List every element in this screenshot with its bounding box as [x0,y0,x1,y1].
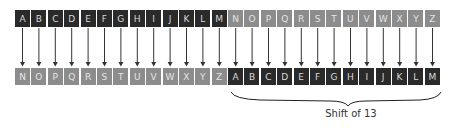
down-arrow-icon [315,28,320,67]
cipher-letter-z: Z [212,68,227,85]
cipher-letter-x: X [179,68,194,85]
down-arrow-icon [53,28,58,67]
cipher-letter-g: G [326,68,341,85]
shifted-alphabet-row: NOPQRSTUVWXYZABCDEFGHIJKLM [15,68,440,85]
cipher-letter-a: A [228,68,243,85]
cipher-letter-u: U [130,68,145,85]
down-arrow-icon [397,28,402,67]
cipher-letter-b: B [244,68,259,85]
down-arrow-icon [250,28,255,67]
cipher-letter-o: O [31,68,46,85]
cipher-letter-h: H [343,68,358,85]
down-arrow-icon [282,28,287,67]
cipher-letter-e: E [294,68,309,85]
cipher-letter-w: W [163,68,178,85]
down-arrow-icon [20,28,25,67]
cipher-letter-y: Y [195,68,210,85]
cipher-letter-q: Q [64,68,79,85]
down-arrow-icon [332,28,337,67]
curly-brace-icon [231,92,441,106]
cipher-letter-r: R [81,68,96,85]
down-arrow-icon [414,28,419,67]
down-arrow-icon [217,28,222,67]
down-arrow-icon [102,28,107,67]
cipher-letter-s: S [97,68,112,85]
down-arrow-icon [266,28,271,67]
down-arrow-icon [430,28,435,67]
cipher-letter-l: L [408,68,423,85]
cipher-letter-j: J [376,68,391,85]
down-arrow-icon [69,28,74,67]
cipher-letter-c: C [261,68,276,85]
down-arrow-icon [118,28,123,67]
down-arrow-icon [299,28,304,67]
down-arrow-icon [184,28,189,67]
cipher-letter-n: N [15,68,30,85]
down-arrow-icon [36,28,41,67]
cipher-letter-m: M [425,68,440,85]
down-arrow-icon [86,28,91,67]
down-arrow-icon [233,28,238,67]
down-arrow-icon [200,28,205,67]
shift-label: Shift of 13 [320,108,382,119]
cipher-letter-f: F [310,68,325,85]
mapping-arrows [0,0,458,128]
down-arrow-icon [364,28,369,67]
cipher-letter-k: K [392,68,407,85]
cipher-letter-d: D [277,68,292,85]
down-arrow-icon [168,28,173,67]
cipher-letter-t: T [113,68,128,85]
down-arrow-icon [381,28,386,67]
cipher-letter-v: V [146,68,161,85]
cipher-letter-i: I [359,68,374,85]
down-arrow-icon [135,28,140,67]
cipher-letter-p: P [48,68,63,85]
down-arrow-icon [348,28,353,67]
down-arrow-icon [151,28,156,67]
